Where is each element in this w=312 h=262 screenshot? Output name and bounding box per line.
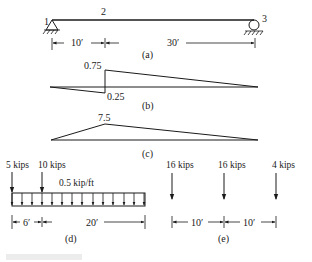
point-load-label-16kips-2: 16 kips [218,160,246,170]
point-load-label-5kips: 5 kips [6,160,29,170]
panel-c-influence-line: 7.5 (c) [51,112,258,160]
node-label-3: 3 [262,13,267,24]
roller-support-icon [244,20,263,35]
influence-line-c [51,124,258,140]
influence-line-b [50,70,258,93]
caption-c: (c) [142,148,153,160]
node-label-1: 1 [44,16,49,27]
panel-e-moving-loads: 16 kips 16 kips 4 kips 10′ 10′ (e) [166,160,295,245]
value-label-0.25: 0.25 [107,91,125,102]
dimension-label-20ft: 20′ [86,217,98,228]
distributed-load-label: 0.5 kip/ft [59,178,94,188]
dimension-label-10ft: 10′ [71,37,83,48]
caption-b: (b) [142,100,154,112]
panel-b-influence-line: 0.75 0.25 (b) [50,60,258,112]
dimension-lines-d [12,215,145,229]
structural-diagram-figure: 1 2 3 10′ 30′ (a) 0.75 0.25 (b) 7.5 (c) … [0,0,312,262]
caption-e: (e) [218,233,229,245]
dimension-label-10ft-2: 10′ [243,217,255,228]
panel-a-beam: 1 2 3 10′ 30′ (a) [43,6,267,61]
distributed-load-icon [12,193,145,206]
panel-d-loading: 5 kips 10 kips 0.5 kip/ft [6,160,145,245]
truncated-figure-caption [6,254,82,260]
caption-a: (a) [142,49,153,61]
dimension-label-10ft-1: 10′ [191,217,203,228]
dimension-label-30ft: 30′ [167,37,179,48]
caption-d: (d) [65,233,77,245]
point-load-label-10kips: 10 kips [38,160,66,170]
dimension-label-6ft: 6′ [23,217,30,228]
value-label-7.5: 7.5 [98,112,111,123]
value-label-0.75: 0.75 [84,60,102,71]
point-load-label-4kips: 4 kips [272,160,295,170]
node-label-2: 2 [101,6,106,17]
point-load-label-16kips-1: 16 kips [166,160,194,170]
dimension-lines-e [172,216,276,228]
